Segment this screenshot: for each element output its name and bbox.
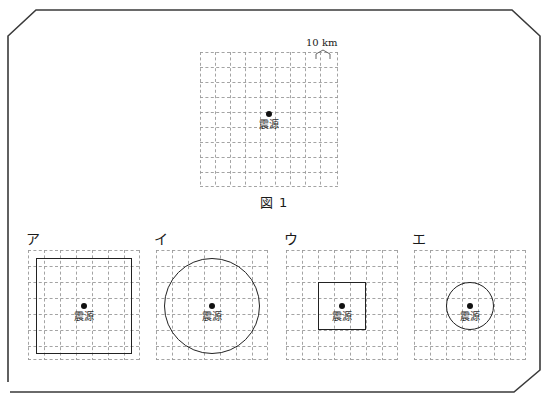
epicenter-marker bbox=[266, 111, 272, 117]
option-block-u: ウ 震源 bbox=[280, 228, 404, 368]
option-grid-panel-a: 震源 bbox=[28, 250, 140, 360]
option-block-a: ア 震源 bbox=[22, 228, 146, 368]
epicenter-marker bbox=[81, 303, 87, 309]
option-label-a: ア bbox=[26, 228, 40, 248]
epicenter-label: 震源 bbox=[259, 120, 279, 130]
figure1-caption: 図 1 bbox=[0, 192, 548, 211]
epicenter-label: 震源 bbox=[74, 312, 94, 322]
epicenter-marker bbox=[209, 303, 215, 309]
figure1-grid-panel: 震源 bbox=[200, 52, 338, 187]
epicenter-label: 震源 bbox=[332, 312, 352, 322]
option-label-i: イ bbox=[154, 228, 168, 248]
option-grid-panel-u: 震源 bbox=[286, 250, 398, 360]
scale-bar: 10 km bbox=[306, 37, 366, 59]
epicenter-marker bbox=[467, 303, 473, 309]
option-block-e: エ 震源 bbox=[408, 228, 532, 368]
option-grid-panel-i: 震源 bbox=[156, 250, 268, 360]
epicenter-marker bbox=[339, 303, 345, 309]
option-label-e: エ bbox=[412, 228, 426, 248]
scale-bar-bracket-icon bbox=[306, 37, 366, 59]
option-grid-panel-e: 震源 bbox=[414, 250, 526, 360]
option-label-u: ウ bbox=[284, 228, 298, 248]
option-block-i: イ 震源 bbox=[150, 228, 274, 368]
epicenter-label: 震源 bbox=[202, 312, 222, 322]
epicenter-label: 震源 bbox=[460, 312, 480, 322]
